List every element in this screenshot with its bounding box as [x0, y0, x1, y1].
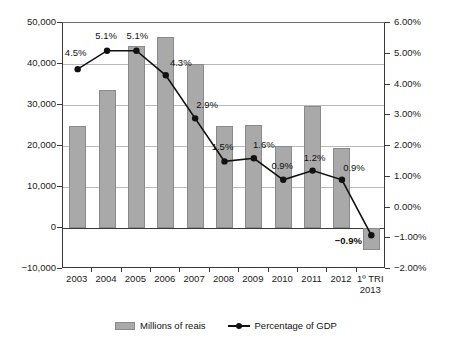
- zero-axis-line: [63, 228, 384, 229]
- legend-entry[interactable]: Millions of reais: [115, 320, 205, 331]
- data-label: 1.6%: [253, 140, 275, 150]
- right-axis-tick: [385, 84, 390, 85]
- data-label: 5.1%: [95, 31, 117, 41]
- left-axis-tick: [57, 268, 62, 269]
- left-axis-tick-label: 30,000: [4, 99, 56, 109]
- category-axis-tick: [268, 268, 269, 272]
- category-axis-label: 1º TRI 2013: [357, 273, 384, 295]
- bar: [187, 64, 204, 228]
- gridline: [63, 64, 384, 65]
- left-axis-tick-label: 10,000: [4, 181, 56, 191]
- bar: [304, 106, 321, 228]
- chart-container: 50,00040,00030,00020,00010,0000−10,000 6…: [0, 0, 452, 347]
- line-marker: [74, 66, 80, 72]
- category-axis-label: 2007: [184, 273, 205, 284]
- right-axis-tick: [385, 176, 390, 177]
- left-axis-tick-label: 50,000: [4, 17, 56, 27]
- category-axis-tick: [209, 268, 210, 272]
- data-label: 1.5%: [212, 142, 234, 152]
- category-axis-tick: [238, 268, 239, 272]
- right-axis-tick-label: 5.00%: [394, 48, 421, 58]
- bar-swatch-icon: [115, 322, 135, 330]
- category-axis-tick: [356, 268, 357, 272]
- category-axis-label: 2006: [154, 273, 175, 284]
- right-axis-tick-label: −2.00%: [394, 263, 427, 273]
- category-axis-label: 2011: [301, 273, 321, 284]
- category-axis-tick: [121, 268, 122, 272]
- data-label: 2.9%: [196, 100, 218, 110]
- category-axis-tick: [179, 268, 180, 272]
- category-axis-label: 2004: [95, 273, 116, 284]
- data-label: 4.5%: [65, 48, 87, 58]
- left-axis-tick-label: 40,000: [4, 58, 56, 68]
- right-axis-tick-label: −1.00%: [394, 232, 427, 242]
- category-axis-label: 2009: [242, 273, 263, 284]
- category-axis-tick: [91, 268, 92, 272]
- bar: [275, 146, 292, 228]
- category-axis-tick: [297, 268, 298, 272]
- right-axis-tick: [385, 22, 390, 23]
- bar: [363, 228, 380, 250]
- bar: [69, 126, 86, 228]
- right-axis-tick: [385, 207, 390, 208]
- right-axis-tick-label: 1.00%: [394, 171, 421, 181]
- category-axis-label: 2008: [213, 273, 234, 284]
- data-label: 1.2%: [304, 153, 326, 163]
- line-marker-icon: [228, 322, 250, 330]
- right-axis-tick-label: 4.00%: [394, 79, 421, 89]
- bar: [333, 148, 350, 228]
- line-marker: [104, 47, 110, 53]
- left-axis-tick-label: −10,000: [4, 263, 56, 273]
- legend-entry[interactable]: Percentage of GDP: [228, 320, 337, 331]
- bar: [99, 90, 116, 228]
- right-axis-tick-label: 6.00%: [394, 17, 421, 27]
- data-label: 0.9%: [343, 163, 365, 173]
- category-axis-label: 2010: [272, 273, 293, 284]
- category-axis-tick: [150, 268, 151, 272]
- legend-label: Millions of reais: [140, 320, 205, 331]
- category-axis-label: 2005: [125, 273, 146, 284]
- chart-legend: Millions of reaisPercentage of GDP: [0, 320, 452, 331]
- right-axis-tick: [385, 114, 390, 115]
- left-axis-tick-label: 0: [4, 222, 56, 232]
- legend-label: Percentage of GDP: [255, 320, 337, 331]
- data-label: 0.9%: [271, 161, 293, 171]
- data-label: 5.1%: [127, 31, 149, 41]
- right-axis-tick-label: 2.00%: [394, 140, 421, 150]
- right-axis-tick-label: 0.00%: [394, 202, 421, 212]
- right-axis-tick-label: 3.00%: [394, 109, 421, 119]
- right-axis-tick: [385, 145, 390, 146]
- data-label: 4.3%: [170, 58, 192, 68]
- left-axis-tick-label: 20,000: [4, 140, 56, 150]
- right-axis-tick: [385, 237, 390, 238]
- category-axis-label: 2003: [66, 273, 87, 284]
- bar: [128, 46, 145, 228]
- data-label: −0.9%: [335, 236, 362, 246]
- right-axis-tick: [385, 53, 390, 54]
- category-axis-tick: [326, 268, 327, 272]
- right-axis-tick: [385, 268, 390, 269]
- category-axis-label: 2012: [330, 273, 351, 284]
